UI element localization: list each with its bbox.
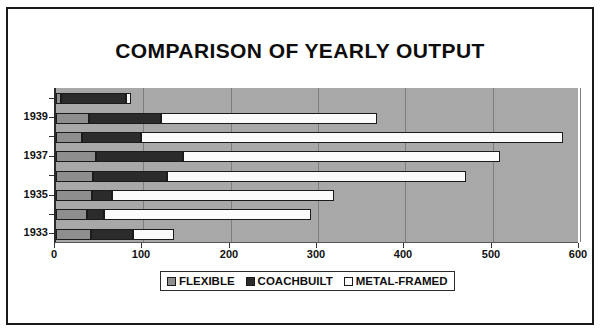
legend-item-label: COACHBUILT xyxy=(258,275,333,287)
y-tick-mark xyxy=(49,195,54,196)
y-tick-label-1939: 1939 xyxy=(6,110,48,122)
x-tick-label-100: 100 xyxy=(121,248,161,260)
bar-row xyxy=(56,209,580,220)
bar-segment xyxy=(56,171,93,182)
legend-item-label: FLEXIBLE xyxy=(179,275,235,287)
bar-segment xyxy=(82,132,141,143)
x-tick-label-0: 0 xyxy=(34,248,74,260)
bar-segment xyxy=(56,132,82,143)
bar-segment xyxy=(56,229,91,240)
bar-segment xyxy=(93,171,167,182)
legend-item-flexible[interactable]: FLEXIBLE xyxy=(167,275,235,287)
bar-segment xyxy=(92,190,112,201)
y-tick-mark xyxy=(49,156,54,157)
x-tick-label-600: 600 xyxy=(558,248,598,260)
x-tick-label-200: 200 xyxy=(209,248,249,260)
legend-item-coachbuilt[interactable]: COACHBUILT xyxy=(246,275,333,287)
y-tick-mark xyxy=(49,117,54,118)
chart-legend: FLEXIBLECOACHBUILTMETAL-FRAMED xyxy=(160,271,455,291)
plot-area xyxy=(54,88,578,243)
chart-frame: COMPARISON OF YEARLY OUTPUT 193319351937… xyxy=(6,7,594,325)
bar-segment xyxy=(167,171,467,182)
legend-swatch-icon xyxy=(344,277,353,286)
bar-segment xyxy=(56,113,89,124)
y-tick-label-1933: 1933 xyxy=(6,226,48,238)
bar-segment xyxy=(61,93,126,104)
bar-segment xyxy=(112,190,334,201)
bar-segment xyxy=(87,209,104,220)
y-tick-mark xyxy=(49,214,54,215)
bar-segment xyxy=(141,132,563,143)
bar-segment xyxy=(96,151,182,162)
bar-row xyxy=(56,93,580,104)
bar-row xyxy=(56,171,580,182)
gridline-600 xyxy=(580,88,581,242)
bar-segment xyxy=(56,209,87,220)
legend-item-label: METAL-FRAMED xyxy=(356,275,448,287)
legend-item-metal[interactable]: METAL-FRAMED xyxy=(344,275,448,287)
y-tick-mark xyxy=(49,175,54,176)
bar-segment xyxy=(104,209,311,220)
bar-segment xyxy=(56,151,96,162)
x-tick-label-300: 300 xyxy=(296,248,336,260)
y-tick-label-1937: 1937 xyxy=(6,149,48,161)
chart-title: COMPARISON OF YEARLY OUTPUT xyxy=(8,39,592,63)
bar-segment xyxy=(183,151,500,162)
bar-segment xyxy=(161,113,378,124)
bar-segment xyxy=(133,229,174,240)
bar-row xyxy=(56,113,580,124)
bar-row xyxy=(56,229,580,240)
legend-swatch-icon xyxy=(167,277,176,286)
bar-row xyxy=(56,132,580,143)
bar-row xyxy=(56,151,580,162)
bar-row xyxy=(56,190,580,201)
bar-segment xyxy=(91,229,133,240)
y-tick-label-1935: 1935 xyxy=(6,188,48,200)
legend-swatch-icon xyxy=(246,277,255,286)
bar-segment xyxy=(126,93,131,104)
y-tick-mark xyxy=(49,233,54,234)
y-tick-mark xyxy=(49,98,54,99)
x-tick-label-400: 400 xyxy=(383,248,423,260)
x-tick-label-500: 500 xyxy=(471,248,511,260)
y-tick-mark xyxy=(49,136,54,137)
bar-segment xyxy=(89,113,161,124)
bar-segment xyxy=(56,190,92,201)
